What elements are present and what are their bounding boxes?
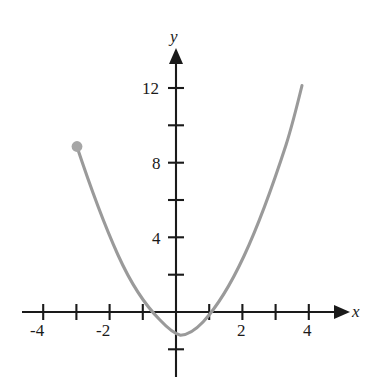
y-axis [169,48,183,377]
y-tick-label-12: 12 [142,80,159,97]
x-tick-label-4: 4 [303,322,312,339]
x-axis-label: x [352,303,360,320]
graph-figure: -4 -2 2 4 4 8 12 y x [0,0,366,388]
left-endpoint-marker [72,141,83,152]
x-axis-arrow-icon [334,305,350,319]
x-tick-label--2: -2 [96,322,110,339]
y-tick-label-4: 4 [152,230,161,247]
y-tick-label-8: 8 [152,155,161,172]
parabola-curve [76,86,302,336]
y-axis-label: y [170,28,178,45]
y-axis-arrow-icon [169,48,183,64]
x-axis [22,305,350,319]
x-tick-label--4: -4 [30,322,44,339]
x-tick-label-2: 2 [237,322,246,339]
